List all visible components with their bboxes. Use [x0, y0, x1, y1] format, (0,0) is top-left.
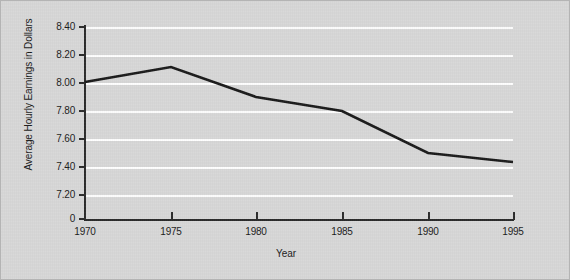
chart-figure: 8.408.208.007.807.607.407.200 1970197519…: [0, 0, 570, 280]
earnings-line: [85, 67, 513, 162]
data-series-layer: [1, 1, 570, 280]
